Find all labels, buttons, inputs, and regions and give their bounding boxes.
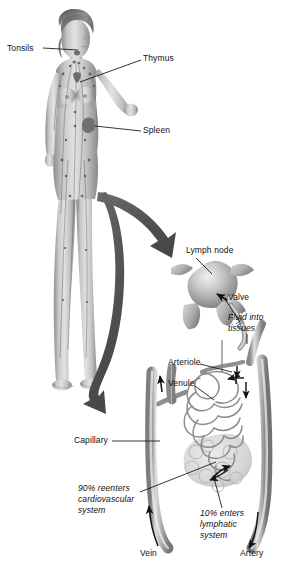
artery-vessel bbox=[249, 324, 267, 548]
label-valve: Valve bbox=[228, 292, 249, 303]
label-thymus: Thymus bbox=[143, 53, 174, 64]
label-spleen: Spleen bbox=[143, 125, 170, 136]
label-enters-lymph-line3: system bbox=[200, 530, 228, 541]
lymphatic-system-diagram: Tonsils Thymus Spleen Lymph node Valve F… bbox=[0, 0, 282, 570]
label-vein: Vein bbox=[140, 548, 157, 559]
diagram-artwork bbox=[0, 0, 282, 570]
label-reenters-line2: cardiovascular bbox=[78, 494, 134, 505]
label-enters-lymph-line1: 10% enters bbox=[200, 508, 244, 519]
lymph-node-icon bbox=[171, 261, 254, 348]
label-reenters-line1: 90% reenters bbox=[78, 483, 130, 494]
label-enters-lymph-line2: lymphatic bbox=[200, 519, 237, 530]
label-tonsils: Tonsils bbox=[7, 43, 34, 54]
label-arteriole: Arteriole bbox=[168, 357, 201, 368]
label-venule: Venule bbox=[168, 378, 195, 389]
label-lymph-node: Lymph node bbox=[186, 245, 233, 256]
label-fluid-into-tissues-line1: Fluid into bbox=[228, 312, 264, 323]
label-reenters-line3: system bbox=[78, 505, 106, 516]
label-fluid-into-tissues-line2: tissues bbox=[228, 323, 255, 334]
curved-arrow-icon bbox=[83, 192, 176, 414]
label-capillary: Capillary bbox=[74, 435, 108, 446]
label-artery: Artery bbox=[240, 548, 263, 559]
